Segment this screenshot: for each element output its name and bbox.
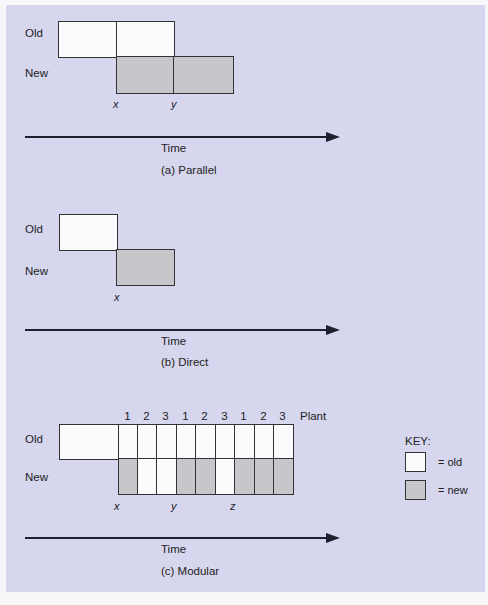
marker-x: x — [113, 98, 119, 110]
key-new-label: = new — [438, 484, 468, 496]
new-plant-cell — [215, 458, 236, 495]
caption-parallel: (a) Parallel — [161, 164, 217, 176]
marker-x: x — [114, 291, 120, 303]
old-row-label: Old — [25, 27, 43, 39]
old-plant-cell — [195, 424, 217, 460]
old-system-block — [58, 21, 118, 58]
time-label: Time — [161, 543, 186, 555]
old-system-block — [116, 21, 175, 58]
key-title: KEY: — [405, 435, 431, 447]
new-plant-cell — [234, 458, 256, 495]
old-plant-cell — [234, 424, 256, 460]
old-system-block — [59, 214, 118, 251]
old-plant-cell — [215, 424, 236, 460]
time-label: Time — [161, 335, 186, 347]
new-row-label: New — [25, 67, 48, 79]
new-plant-cell — [254, 458, 275, 495]
caption-modular: (c) Modular — [161, 565, 219, 577]
new-plant-cell — [137, 458, 158, 495]
plant-number: 3 — [273, 410, 292, 422]
old-plant-cell — [254, 424, 275, 460]
old-plant-cell — [118, 424, 139, 460]
marker-z: z — [230, 500, 236, 512]
plant-number: 2 — [137, 410, 156, 422]
new-row-label: New — [25, 471, 48, 483]
plant-number: 3 — [156, 410, 175, 422]
old-plant-cell — [273, 424, 294, 460]
key-old-swatch — [405, 452, 426, 472]
old-row-label: Old — [25, 433, 43, 445]
old-plant-cell — [137, 424, 158, 460]
plant-number: 1 — [234, 410, 253, 422]
plant-number: 1 — [176, 410, 195, 422]
time-arrow-icon — [25, 329, 328, 331]
new-system-block — [116, 56, 175, 94]
time-label: Time — [161, 142, 186, 154]
old-plant-cell — [156, 424, 178, 460]
diagram-panel — [6, 5, 485, 592]
old-system-block — [59, 424, 120, 460]
plant-number: 3 — [215, 410, 234, 422]
time-arrow-icon — [25, 136, 328, 138]
plant-label: Plant — [300, 410, 326, 422]
old-plant-cell — [176, 424, 197, 460]
key-new-swatch — [405, 480, 426, 500]
new-system-block — [173, 56, 234, 94]
old-row-label: Old — [25, 223, 43, 235]
caption-direct: (b) Direct — [161, 356, 208, 368]
plant-number: 1 — [118, 410, 137, 422]
new-plant-cell — [176, 458, 197, 495]
new-plant-cell — [195, 458, 217, 495]
plant-number: 2 — [195, 410, 214, 422]
new-plant-cell — [118, 458, 139, 495]
time-arrow-icon — [25, 537, 328, 539]
new-system-block — [116, 249, 175, 286]
new-plant-cell — [273, 458, 294, 495]
marker-y: y — [171, 500, 177, 512]
marker-x: x — [114, 500, 120, 512]
marker-y: y — [171, 98, 177, 110]
plant-number: 2 — [254, 410, 273, 422]
new-row-label: New — [25, 265, 48, 277]
new-plant-cell — [156, 458, 178, 495]
key-old-label: = old — [438, 456, 462, 468]
